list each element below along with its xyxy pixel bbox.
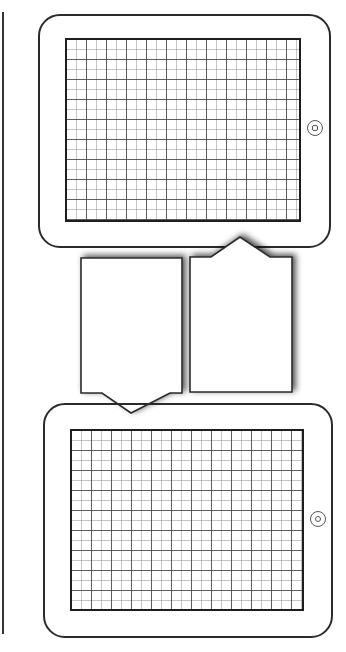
home-circle-icon — [315, 516, 321, 522]
bottom-home-button-icon[interactable] — [310, 511, 326, 527]
left-callout — [81, 258, 182, 413]
right-callout — [190, 237, 292, 392]
bottom-tablet-screen-grid — [70, 429, 304, 611]
